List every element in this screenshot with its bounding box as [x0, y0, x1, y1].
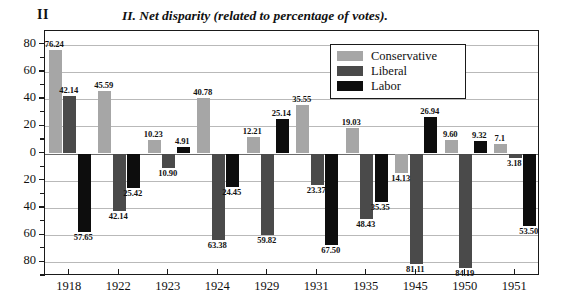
legend-label-liberal: Liberal — [371, 65, 407, 78]
y-axis-tick-label: 80 — [4, 253, 36, 268]
bar-conservative-1931[interactable] — [296, 105, 309, 153]
x-axis-tick-label: 1931 — [304, 279, 329, 294]
x-axis-tick-label: 1929 — [254, 279, 279, 294]
y-axis-tick — [39, 206, 45, 207]
bar-labor-1945[interactable] — [424, 117, 437, 154]
x-axis-tick — [68, 269, 69, 275]
y-axis-tick-label: 80 — [4, 36, 36, 51]
y-axis-tick — [39, 97, 45, 98]
y-axis-minor-tick — [40, 193, 45, 194]
bar-value-label: 81.11 — [406, 264, 424, 274]
x-axis-tick — [266, 269, 267, 275]
y-axis-minor-tick — [40, 220, 45, 221]
bar-liberal-1918[interactable] — [63, 96, 76, 153]
x-axis-tick — [365, 269, 366, 275]
bar-conservative-1935[interactable] — [346, 128, 359, 154]
bar-value-label: 3.18 — [507, 158, 522, 168]
bar-labor-1918[interactable] — [78, 154, 91, 232]
bar-conservative-1950[interactable] — [445, 140, 458, 153]
bar-value-label: 4.91 — [175, 136, 190, 146]
bar-value-label: 35.55 — [292, 94, 311, 104]
bar-liberal-1950[interactable] — [459, 154, 472, 269]
bar-labor-1929[interactable] — [276, 119, 289, 153]
x-axis-tick-label: 1935 — [353, 279, 378, 294]
bar-labor-1922[interactable] — [127, 154, 140, 189]
y-axis-tick-label: 0 — [4, 145, 36, 160]
y-axis-tick — [39, 179, 45, 180]
y-axis-tick-label: 60 — [4, 63, 36, 78]
bar-value-label: 53.50 — [519, 226, 538, 236]
bar-value-label: 84.19 — [455, 268, 474, 278]
bar-labor-1931[interactable] — [325, 154, 338, 246]
y-axis-minor-tick — [40, 274, 45, 275]
bar-conservative-1929[interactable] — [247, 137, 260, 154]
y-axis-tick-label: 40 — [4, 90, 36, 105]
x-axis-tick-label: 1918 — [56, 279, 81, 294]
bar-value-label: 45.59 — [94, 80, 113, 90]
bar-value-label: 24.45 — [222, 187, 241, 197]
y-axis-tick-label: 40 — [4, 199, 36, 214]
legend-item-liberal[interactable]: Liberal — [337, 64, 459, 78]
bar-value-label: 9.32 — [472, 130, 487, 140]
x-axis-tick — [316, 269, 317, 275]
y-axis-tick — [39, 125, 45, 126]
x-axis-tick — [217, 269, 218, 275]
x-axis-tick-label: 1951 — [502, 279, 527, 294]
x-axis-tick-label: 1945 — [403, 279, 428, 294]
bar-conservative-1918[interactable] — [49, 50, 62, 154]
bar-labor-1951[interactable] — [523, 154, 536, 227]
bar-labor-1923[interactable] — [177, 147, 190, 154]
chart-legend: Conservative Liberal Labor — [330, 44, 466, 99]
bar-liberal-1929[interactable] — [261, 154, 274, 235]
bar-value-label: 14.13 — [391, 173, 410, 183]
bar-value-label: 67.50 — [321, 245, 340, 255]
liberal-swatch-icon — [337, 66, 363, 76]
bar-labor-1950[interactable] — [474, 141, 487, 154]
chart-figure: II II. Net disparity (related to percent… — [0, 0, 575, 308]
y-axis-minor-tick — [40, 247, 45, 248]
y-axis-minor-tick — [40, 84, 45, 85]
bar-value-label: 40.78 — [193, 87, 212, 97]
figure-title: II. Net disparity (related to percentage… — [122, 8, 388, 24]
x-axis-tick-label: 1950 — [452, 279, 477, 294]
bar-labor-1924[interactable] — [226, 154, 239, 187]
x-axis-tick — [167, 269, 168, 275]
bar-liberal-1931[interactable] — [311, 154, 324, 186]
bar-liberal-1945[interactable] — [410, 154, 423, 264]
y-axis-tick — [39, 261, 45, 262]
x-axis-tick — [514, 269, 515, 275]
bar-value-label: 42.14 — [59, 85, 78, 95]
legend-item-conservative[interactable]: Conservative — [337, 49, 459, 63]
y-axis-minor-tick — [40, 111, 45, 112]
bar-value-label: 25.14 — [272, 108, 291, 118]
bar-value-label: 10.90 — [158, 168, 177, 178]
y-axis-minor-tick — [40, 57, 45, 58]
y-axis-tick — [39, 152, 45, 153]
bar-value-label: 19.03 — [342, 117, 361, 127]
labor-swatch-icon — [337, 81, 363, 91]
bar-labor-1935[interactable] — [375, 154, 388, 202]
bar-conservative-1951[interactable] — [494, 144, 507, 154]
bar-conservative-1922[interactable] — [98, 91, 111, 153]
bar-conservative-1923[interactable] — [148, 140, 161, 154]
x-axis-tick-label: 1922 — [106, 279, 131, 294]
bar-value-label: 35.35 — [371, 202, 390, 212]
bar-value-label: 57.65 — [74, 232, 93, 242]
y-axis-tick — [39, 70, 45, 71]
y-axis-tick — [39, 234, 45, 235]
figure-number: II — [37, 7, 49, 23]
bar-value-label: 12.21 — [243, 126, 262, 136]
bar-value-label: 10.23 — [144, 129, 163, 139]
y-axis-tick-label: 60 — [4, 226, 36, 241]
legend-label-conservative: Conservative — [371, 50, 437, 63]
bar-conservative-1945[interactable] — [395, 154, 408, 173]
y-axis-minor-tick — [40, 138, 45, 139]
legend-item-labor[interactable]: Labor — [337, 79, 459, 93]
bar-conservative-1924[interactable] — [197, 98, 210, 154]
bar-liberal-1923[interactable] — [162, 154, 175, 169]
gridline — [45, 126, 538, 127]
x-axis-tick — [118, 269, 119, 275]
y-axis-tick-label: 20 — [4, 172, 36, 187]
bar-liberal-1922[interactable] — [113, 154, 126, 211]
bar-value-label: 26.94 — [420, 106, 439, 116]
